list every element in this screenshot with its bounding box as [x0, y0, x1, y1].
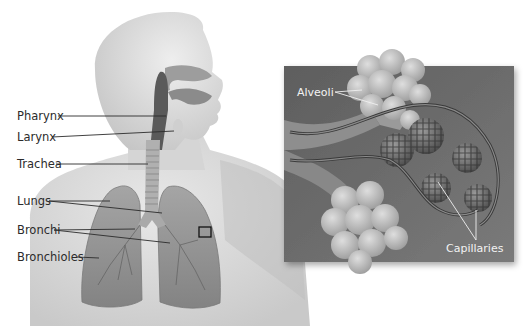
label-pharynx: Pharynx — [17, 110, 64, 123]
label-capillaries: Capillaries — [446, 242, 503, 255]
label-larynx: Larynx — [17, 131, 56, 144]
trachea-illustration — [145, 140, 160, 215]
diagram-illustration — [0, 0, 524, 326]
alveoli-inset — [284, 49, 514, 274]
label-trachea: Trachea — [17, 158, 62, 171]
label-bronchi: Bronchi — [17, 224, 61, 237]
label-bronchioles: Bronchioles — [17, 251, 84, 264]
label-alveoli: Alveoli — [297, 86, 334, 99]
label-lungs: Lungs — [17, 195, 51, 208]
respiratory-diagram: Pharynx Larynx Trachea Lungs Bronchi Bro… — [0, 0, 524, 326]
